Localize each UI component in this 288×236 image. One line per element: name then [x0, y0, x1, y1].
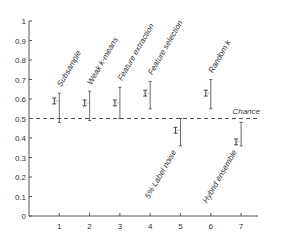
- point-label: Subsample: [55, 49, 83, 89]
- y-tick-label: 0.4: [15, 134, 27, 143]
- y-tick-label: 0: [22, 212, 27, 221]
- x-tick-label: 7: [239, 222, 244, 231]
- point-label: Random k: [207, 38, 234, 75]
- y-tick-label: 1: [22, 17, 27, 26]
- point-label: 5% Label noise: [143, 148, 178, 200]
- y-tick-label: 0.2: [15, 173, 27, 182]
- x-tick-label: 5: [178, 222, 183, 231]
- chance-label: Chance: [232, 107, 260, 116]
- x-tick-label: 2: [87, 222, 92, 231]
- y-tick-label: 0.1: [15, 193, 27, 202]
- y-tick-label: 0.5: [15, 115, 27, 124]
- x-tick-label: 4: [148, 222, 153, 231]
- point-label: Hybrid ensemble: [201, 148, 239, 205]
- point-label: Weak k-means: [86, 36, 120, 87]
- error-bar-chart: 00.10.20.30.40.50.60.70.80.911234567Chan…: [0, 0, 288, 236]
- y-tick-label: 0.3: [15, 154, 27, 163]
- x-tick-label: 6: [209, 222, 214, 231]
- x-tick-label: 1: [57, 222, 62, 231]
- y-tick-label: 0.6: [15, 95, 27, 104]
- y-tick-label: 0.9: [15, 37, 27, 46]
- y-tick-label: 0.8: [15, 56, 27, 65]
- x-tick-label: 3: [118, 222, 123, 231]
- y-tick-label: 0.7: [15, 76, 27, 85]
